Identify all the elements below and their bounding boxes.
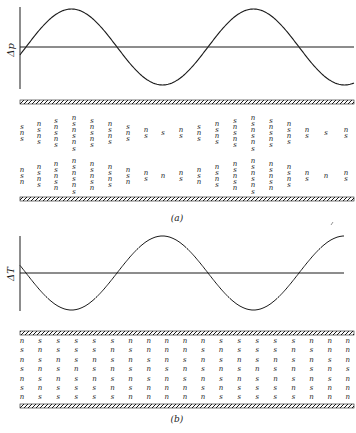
letter-s: s	[56, 365, 60, 373]
letter-s: s	[72, 188, 76, 196]
letter-s: s	[93, 393, 97, 401]
letter-s: s	[161, 129, 165, 137]
letter-n: n	[255, 365, 260, 373]
letter-s: s	[292, 375, 296, 383]
letter-n: n	[346, 346, 351, 354]
letter-s: s	[292, 356, 296, 364]
letter-n: n	[327, 384, 332, 392]
letter-s: s	[219, 393, 223, 401]
letter-n: n	[110, 384, 115, 392]
letter-n: n	[165, 337, 170, 345]
letter-n: n	[273, 375, 278, 383]
letter-s: s	[108, 138, 112, 146]
letter-n: n	[20, 393, 25, 401]
panel-a: Δp snsnsnnsnsnsnssnsnsnsnsnnsnsnsnsnsnss…	[5, 7, 354, 223]
letter-n: n	[183, 393, 188, 401]
letter-s: s	[75, 384, 79, 392]
letter-s: s	[38, 356, 42, 364]
letter-n: n	[146, 384, 151, 392]
letter-s: s	[274, 365, 278, 373]
letter-s: s	[219, 356, 223, 364]
letter-s: s	[75, 356, 79, 364]
letter-s: s	[37, 138, 41, 146]
letter-n: n	[237, 375, 242, 383]
letter-n: n	[309, 337, 314, 345]
letter-n: n	[309, 393, 314, 401]
letter-n: n	[346, 375, 351, 383]
letter-s: s	[201, 346, 205, 354]
letter-s: s	[56, 346, 60, 354]
letter-s: s	[256, 356, 260, 364]
letter-n: n	[327, 365, 332, 373]
letter-s: s	[111, 356, 115, 364]
letter-n: n	[38, 346, 43, 354]
letter-s: s	[56, 393, 60, 401]
letter-n: n	[197, 178, 202, 186]
letter-s: s	[256, 337, 260, 345]
letter-s: s	[344, 175, 348, 183]
letter-n: n	[165, 393, 170, 401]
letter-s: s	[183, 356, 187, 364]
letter-s: s	[90, 141, 94, 149]
tube-wall-top	[20, 331, 354, 335]
letter-s: s	[201, 365, 205, 373]
letter-s: s	[251, 188, 255, 196]
letter-s: s	[274, 346, 278, 354]
letter-n: n	[56, 356, 61, 364]
letter-n: n	[38, 384, 43, 392]
letter-s: s	[256, 393, 260, 401]
letter-n: n	[165, 384, 170, 392]
letter-s: s	[20, 346, 24, 354]
particle-letters-a: snsnsnnsnsnsnssnsnsnsnsnnsnsnsnsnsnssnsn…	[20, 114, 349, 196]
letter-s: s	[287, 181, 291, 189]
letter-s: s	[256, 384, 260, 392]
letter-s: s	[197, 135, 201, 143]
letter-n: n	[201, 393, 206, 401]
letter-s: s	[37, 181, 41, 189]
letter-n: n	[54, 184, 59, 192]
letter-n: n	[74, 365, 79, 373]
letter-s: s	[183, 375, 187, 383]
letter-s: s	[147, 375, 151, 383]
letter-s: s	[256, 346, 260, 354]
letter-n: n	[346, 337, 351, 345]
letter-s: s	[215, 138, 219, 146]
letter-s: s	[38, 375, 42, 383]
letter-s: s	[129, 384, 133, 392]
letter-n: n	[146, 346, 151, 354]
letter-n: n	[201, 375, 206, 383]
panel-b-tube: nsssssnnnnnsssssnnnsnsssnsnnnsnsssnsnnns…	[20, 331, 354, 408]
letter-n: n	[324, 172, 329, 180]
letter-s: s	[219, 375, 223, 383]
letter-n: n	[128, 393, 133, 401]
panel-b: ΔT nsssssnnnnnsssssnnnsnsssnsnnnsnsssnsn…	[5, 236, 354, 424]
panel-b-caption: (b)	[171, 414, 184, 424]
letter-n: n	[128, 337, 133, 345]
letter-s: s	[237, 337, 241, 345]
letter-n: n	[146, 365, 151, 373]
letter-s: s	[111, 393, 115, 401]
letter-n: n	[56, 375, 61, 383]
letter-n: n	[233, 184, 238, 192]
letter-n: n	[20, 178, 25, 186]
letter-n: n	[327, 346, 332, 354]
scan-speck	[331, 222, 333, 225]
letter-s: s	[305, 132, 309, 140]
letter-s: s	[237, 365, 241, 373]
letter-s: s	[328, 356, 332, 364]
letter-s: s	[111, 337, 115, 345]
panel-a-plot: Δp	[5, 7, 354, 89]
letter-s: s	[75, 375, 79, 383]
letter-s: s	[179, 175, 183, 183]
letter-n: n	[201, 356, 206, 364]
letter-s: s	[38, 393, 42, 401]
letter-s: s	[215, 181, 219, 189]
letter-s: s	[147, 356, 151, 364]
panel-b-plot: ΔT	[5, 236, 344, 311]
panel-a-y-label: Δp	[5, 43, 16, 58]
letter-n: n	[146, 337, 151, 345]
letter-n: n	[219, 346, 224, 354]
letter-s: s	[219, 337, 223, 345]
letter-n: n	[165, 375, 170, 383]
letter-n: n	[110, 365, 115, 373]
